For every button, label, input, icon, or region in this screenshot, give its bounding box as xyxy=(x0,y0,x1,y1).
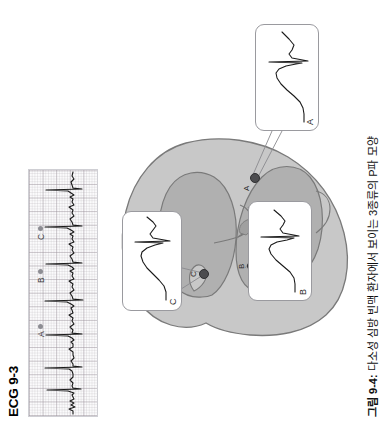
heart-site-label-c: C xyxy=(189,271,198,277)
callout-wave-a xyxy=(256,25,318,130)
callout-box-c: C xyxy=(122,211,182,311)
callout-box-b: B xyxy=(248,201,312,301)
heart-site-label-a: A xyxy=(242,186,251,191)
heart-site-dot-a xyxy=(250,173,260,183)
callout-box-a: A xyxy=(255,24,319,131)
figure-number: 그림 9-4: xyxy=(367,374,379,417)
callout-label-c: C xyxy=(168,299,178,306)
figure-page: ECG 9-3 A B C xyxy=(0,0,385,443)
callout-connectors xyxy=(0,0,385,443)
callout-label-b: B xyxy=(298,289,308,295)
figure-caption: 그림 9-4: 다소성 심방 빈맥 환자에서 보이는 3종류의 P파 모양 xyxy=(364,17,380,417)
figure-caption-text: 다소성 심방 빈맥 환자에서 보이는 3종류의 P파 모양 xyxy=(367,136,379,374)
callout-wave-b xyxy=(249,202,311,300)
callout-wave-c xyxy=(123,212,181,310)
heart-site-label-b: B xyxy=(237,264,246,269)
heart-site-dot-c xyxy=(199,269,209,279)
rotated-page-content: ECG 9-3 A B C xyxy=(0,0,385,443)
callout-label-a: A xyxy=(305,119,315,125)
